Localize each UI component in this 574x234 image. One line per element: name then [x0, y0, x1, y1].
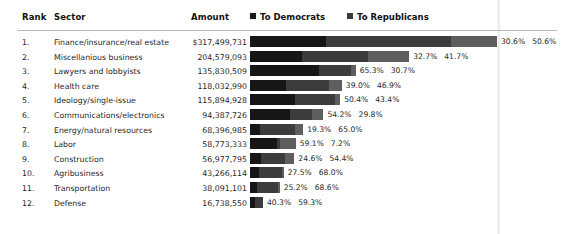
cell-rank: 4.: [22, 82, 29, 92]
bar-segment-other: [282, 167, 284, 178]
cell-amount: 16,738,550: [191, 199, 247, 209]
cell-rank: 1.: [22, 38, 29, 48]
stacked-bar: [250, 80, 342, 91]
header-divider: [17, 30, 557, 31]
cell-amount: 135,830,509: [191, 67, 247, 77]
stacked-bar: [250, 36, 497, 47]
stacked-bar: [250, 138, 296, 149]
table-row: 5.Ideology/single-issue115,894,92850.4%4…: [0, 94, 574, 109]
value-label-republicans: 59.3%: [298, 198, 322, 208]
bar-value-labels: 27.5%68.0%: [288, 168, 343, 178]
table-row: 2.Miscellanious business204,579,09332.7%…: [0, 51, 574, 66]
bar-segment-other: [335, 94, 341, 105]
value-label-democrats: 59.1%: [300, 139, 324, 149]
bar-value-labels: 54.2%29.8%: [327, 110, 382, 120]
bar-segment-republicans: [326, 36, 451, 47]
bar-segment-republicans: [259, 167, 282, 178]
stacked-bar: [250, 182, 280, 193]
cell-amount: 118,032,990: [191, 82, 247, 92]
bar-segment-other: [278, 182, 280, 193]
bar-value-labels: 32.7%41.7%: [413, 52, 468, 62]
bar-value-labels: 59.1%7.2%: [300, 139, 350, 149]
bar-segment-republicans: [302, 51, 368, 62]
value-label-republicans: 41.7%: [444, 52, 468, 62]
table-row: 12.Defense16,738,55040.3%59.3%: [0, 197, 574, 212]
value-label-democrats: 39.0%: [346, 81, 370, 91]
bar-value-labels: 30.6%50.6%: [501, 37, 556, 47]
cell-sector: Defense: [54, 199, 86, 209]
bar-segment-republicans: [319, 65, 351, 76]
bar-segment-republicans: [295, 94, 334, 105]
bar-segment-democrats: [250, 167, 259, 178]
cell-sector: Communications/electronics: [54, 111, 165, 121]
cell-rank: 12.: [22, 199, 34, 209]
table-row: 7.Energy/natural resources68,396,98519.3…: [0, 124, 574, 139]
bar-group: [250, 36, 497, 47]
bar-group: [250, 197, 263, 208]
legend-item-republicans: To Republicans: [347, 12, 429, 22]
value-label-democrats: 30.6%: [501, 37, 525, 47]
cell-sector: Miscellanious business: [54, 53, 143, 63]
bar-segment-republicans: [260, 124, 295, 135]
stacked-bar: [250, 51, 409, 62]
cell-sector: Labor: [54, 140, 76, 150]
bar-segment-republicans: [261, 153, 285, 164]
value-label-democrats: 54.2%: [327, 110, 351, 120]
cell-sector: Ideology/single-issue: [54, 96, 136, 106]
table-row: 1.Finance/insurance/real estate$317,499,…: [0, 36, 574, 51]
value-label-republicans: 29.8%: [359, 110, 383, 120]
cell-rank: 8.: [22, 140, 29, 150]
column-header-sector: Sector: [54, 12, 86, 22]
bar-segment-other: [295, 124, 303, 135]
value-label-democrats: 40.3%: [267, 198, 291, 208]
legend-item-democrats: To Democrats: [250, 12, 325, 22]
table-row: 6.Communications/electronics94,387,72654…: [0, 109, 574, 124]
bar-segment-democrats: [250, 94, 295, 105]
bar-group: [250, 65, 356, 76]
bar-segment-democrats: [250, 182, 257, 193]
bar-group: [250, 138, 296, 149]
bar-segment-other: [451, 36, 497, 47]
cell-amount: 38,091,101: [191, 184, 247, 194]
bar-segment-republicans: [255, 197, 263, 208]
value-label-republicans: 30.7%: [391, 66, 415, 76]
bar-group: [250, 153, 294, 164]
value-label-democrats: 50.4%: [344, 95, 368, 105]
value-label-democrats: 65.3%: [360, 66, 384, 76]
stacked-bar: [250, 197, 263, 208]
cell-amount: 94,387,726: [191, 111, 247, 121]
bar-value-labels: 65.3%30.7%: [360, 66, 415, 76]
legend-label-republicans: To Republicans: [357, 12, 429, 22]
bar-segment-democrats: [250, 109, 290, 120]
value-label-republicans: 54.4%: [329, 154, 353, 164]
cell-sector: Agribusiness: [54, 169, 104, 179]
table-row: 10.Agribusiness43,266,11427.5%68.0%: [0, 167, 574, 182]
cell-rank: 10.: [22, 169, 34, 179]
cell-amount: $317,499,731: [191, 38, 247, 48]
cell-rank: 5.: [22, 96, 29, 106]
table-row: 11.Transportation38,091,10125.2%68.6%: [0, 182, 574, 197]
legend-label-democrats: To Democrats: [260, 12, 325, 22]
cell-rank: 11.: [22, 184, 34, 194]
value-label-democrats: 27.5%: [288, 168, 312, 178]
bar-segment-other: [312, 109, 324, 120]
bar-value-labels: 40.3%59.3%: [267, 198, 322, 208]
bar-group: [250, 182, 280, 193]
bar-segment-other: [329, 80, 342, 91]
bar-group: [250, 109, 323, 120]
value-label-democrats: 24.6%: [298, 154, 322, 164]
cell-rank: 6.: [22, 111, 29, 121]
bar-group: [250, 124, 303, 135]
bar-segment-democrats: [250, 153, 261, 164]
square-swatch-icon: [347, 13, 353, 19]
value-label-republicans: 68.0%: [319, 168, 343, 178]
value-label-republicans: 68.6%: [315, 183, 339, 193]
bar-segment-democrats: [250, 36, 326, 47]
cell-sector: Construction: [54, 155, 104, 165]
stacked-bar: [250, 124, 303, 135]
table-body: 1.Finance/insurance/real estate$317,499,…: [0, 36, 574, 211]
bar-segment-other: [368, 51, 409, 62]
cell-sector: Finance/insurance/real estate: [54, 38, 169, 48]
stacked-bar: [250, 167, 284, 178]
value-label-democrats: 32.7%: [413, 52, 437, 62]
